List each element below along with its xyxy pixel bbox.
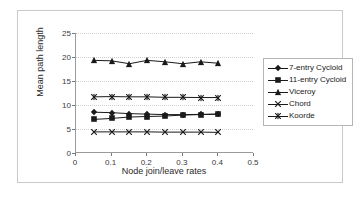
data-point-asterisk	[215, 94, 222, 101]
legend-label: Koorde	[289, 110, 315, 122]
y-axis-tick-label: 0	[67, 149, 71, 158]
data-point-asterisk	[108, 93, 115, 100]
x-axis-tick-mark	[182, 153, 183, 156]
legend-key	[267, 98, 289, 110]
data-point-asterisk	[90, 93, 97, 100]
x-axis-tick-mark	[111, 153, 112, 156]
diamond-marker-icon	[275, 65, 282, 72]
chart-legend: 7-entry Cycloid11-entry CycloidViceroyCh…	[263, 58, 353, 126]
legend-item[interactable]: 11-entry Cycloid	[266, 74, 350, 86]
y-axis-tick-label: 20	[62, 53, 71, 62]
legend-item[interactable]: Chord	[266, 98, 350, 110]
x-axis-tick-mark	[146, 153, 147, 156]
data-point-asterisk	[126, 93, 133, 100]
x-axis-tick-mark	[75, 153, 76, 156]
triangle-marker-icon	[275, 89, 282, 96]
chart-frame: 0510152025 Mean path length 00.10.20.30.…	[17, 10, 343, 183]
data-point-asterisk	[197, 94, 204, 101]
plot-area	[75, 33, 253, 153]
data-point-asterisk	[144, 93, 151, 100]
data-point-asterisk	[179, 94, 186, 101]
legend-key	[267, 74, 289, 86]
legend-label: Viceroy	[289, 86, 316, 98]
legend-item[interactable]: 7-entry Cycloid	[266, 62, 350, 74]
legend-key	[267, 62, 289, 74]
legend-label: 11-entry Cycloid	[289, 74, 346, 86]
x-marker-icon	[275, 101, 282, 108]
data-point-asterisk	[162, 94, 169, 101]
square-marker-icon	[275, 77, 282, 84]
legend-item[interactable]: Viceroy	[266, 86, 350, 98]
y-axis-tick-label: 25	[62, 29, 71, 38]
y-axis-tick-label: 10	[62, 101, 71, 110]
y-axis-tick-label: 5	[67, 125, 71, 134]
asterisk-marker-icon	[275, 113, 282, 120]
plot-inner	[76, 33, 253, 152]
y-axis-tick-label: 15	[62, 77, 71, 86]
x-axis-tick-mark	[217, 153, 218, 156]
y-axis-title: Mean path length	[35, 2, 45, 122]
y-axis: 0510152025	[18, 33, 75, 153]
x-axis-title: Node join/leave rates	[75, 166, 253, 176]
legend-label: Chord	[289, 98, 311, 110]
legend-label: 7-entry Cycloid	[289, 62, 342, 74]
legend-key	[267, 86, 289, 98]
legend-key	[267, 110, 289, 122]
legend-item[interactable]: Koorde	[266, 110, 350, 122]
x-axis-tick-mark	[253, 153, 254, 156]
